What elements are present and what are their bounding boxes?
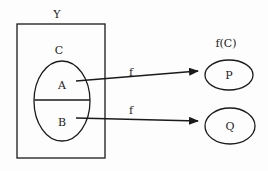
subset-c-label: C <box>55 44 63 57</box>
subset-c-ellipse <box>34 61 90 141</box>
diagram-canvas: Y C A B f f f(C) P Q <box>0 0 268 171</box>
arrow-b-to-q <box>76 118 198 121</box>
target-q-label: Q <box>225 120 234 133</box>
target-p-label: P <box>225 69 233 82</box>
image-fc-label: f(C) <box>215 37 236 50</box>
arrow-a-to-p <box>76 71 198 81</box>
part-b-label: B <box>58 116 66 129</box>
arrow-top-f-label: f <box>129 66 134 79</box>
arrow-bottom-f-label: f <box>129 104 134 117</box>
part-a-label: A <box>57 79 67 92</box>
set-y-label: Y <box>52 8 61 21</box>
